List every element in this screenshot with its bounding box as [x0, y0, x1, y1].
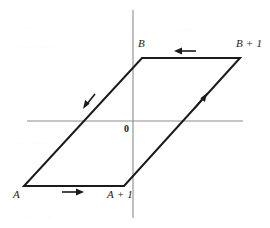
- arrow-right-diagonal: [195, 93, 207, 108]
- vertex-label-a-plus-1: A + 1: [107, 189, 133, 200]
- vertex-label-b: B: [138, 38, 145, 49]
- figure-container: · · · · ·· · · · ·· · ·· · ·· · · ·· ·· …: [0, 0, 270, 228]
- arrow-left-diagonal: [83, 94, 95, 109]
- origin-label: 0: [124, 124, 129, 134]
- parallelogram-loop: [24, 58, 240, 186]
- figure-canvas: [0, 0, 270, 228]
- arrow-top-left: [174, 48, 196, 55]
- vertex-label-a: A: [13, 189, 20, 200]
- vertex-label-b-plus-1: B + 1: [236, 38, 262, 49]
- arrow-bottom-right: [62, 189, 84, 196]
